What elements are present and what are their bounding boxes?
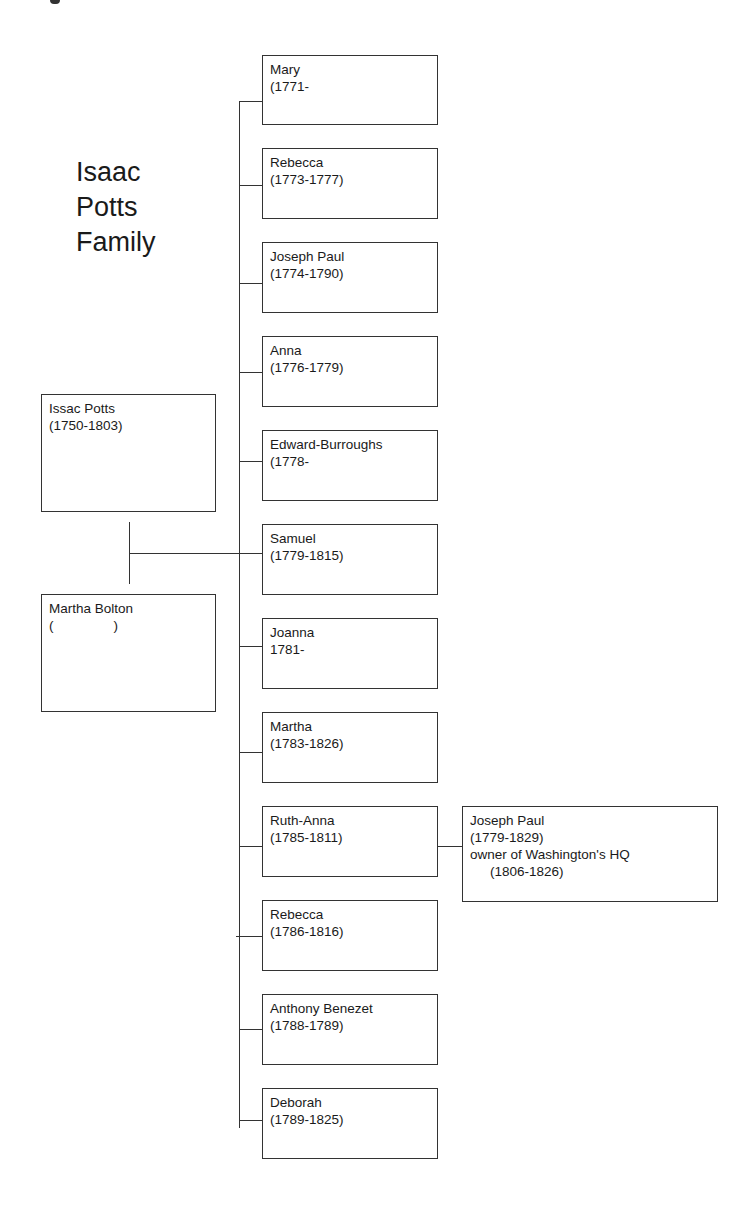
marriage-to-children-line xyxy=(129,553,262,554)
child-name: Mary xyxy=(270,61,437,78)
child-dates: (1789-1825) xyxy=(270,1111,437,1128)
father-name: Issac Potts xyxy=(49,400,215,417)
title-line-2: Potts xyxy=(76,190,156,225)
child-name: Samuel xyxy=(270,530,437,547)
child-name: Joanna xyxy=(270,624,437,641)
child-connector xyxy=(239,846,262,847)
child-connector xyxy=(239,185,262,186)
child-box-mary: Mary (1771- xyxy=(262,55,438,125)
child-box-anna: Anna (1776-1779) xyxy=(262,336,438,407)
child-name: Rebecca xyxy=(270,906,437,923)
spouse-note-dates: (1806-1826) xyxy=(470,863,717,880)
child-dates: (1776-1779) xyxy=(270,359,437,376)
child-box-anthony-benezet: Anthony Benezet (1788-1789) xyxy=(262,994,438,1065)
child-connector xyxy=(236,936,262,937)
child-connector xyxy=(239,101,262,102)
child-dates: (1786-1816) xyxy=(270,923,437,940)
spouse-name: Joseph Paul xyxy=(470,812,717,829)
child-dates: (1785-1811) xyxy=(270,829,437,846)
child-box-ruth-anna: Ruth-Anna (1785-1811) xyxy=(262,806,438,877)
child-name: Ruth-Anna xyxy=(270,812,437,829)
child-dates: (1773-1777) xyxy=(270,171,437,188)
child-name: Deborah xyxy=(270,1094,437,1111)
child-dates: 1781- xyxy=(270,641,437,658)
child-dates: (1771- xyxy=(270,78,437,95)
title-line-3: Family xyxy=(76,225,156,260)
child-box-edward-burroughs: Edward-Burroughs (1778- xyxy=(262,430,438,501)
child-box-rebecca-1786: Rebecca (1786-1816) xyxy=(262,900,438,971)
spouse-box-joseph-paul: Joseph Paul (1779-1829) owner of Washing… xyxy=(462,806,718,902)
title-line-1: Isaac xyxy=(76,155,156,190)
mother-name: Martha Bolton xyxy=(49,600,215,617)
child-dates: (1778- xyxy=(270,453,437,470)
child-box-rebecca-1773: Rebecca (1773-1777) xyxy=(262,148,438,219)
diagram-title: Isaac Potts Family xyxy=(76,155,156,260)
mother-box: Martha Bolton ( ) xyxy=(41,594,216,712)
child-connector xyxy=(239,1029,262,1030)
mother-dates: ( ) xyxy=(49,617,215,634)
top-edge-artifact xyxy=(50,0,60,4)
spouse-dates: (1779-1829) xyxy=(470,829,717,846)
child-box-joanna: Joanna 1781- xyxy=(262,618,438,689)
child-name: Joseph Paul xyxy=(270,248,437,265)
child-connector xyxy=(239,1120,262,1121)
father-box: Issac Potts (1750-1803) xyxy=(41,394,216,512)
child-dates: (1774-1790) xyxy=(270,265,437,282)
child-connector xyxy=(239,372,262,373)
child-box-deborah: Deborah (1789-1825) xyxy=(262,1088,438,1159)
child-dates: (1779-1815) xyxy=(270,547,437,564)
ruth-anna-marriage-line xyxy=(438,846,462,847)
children-trunk-line xyxy=(239,101,240,1128)
child-name: Anna xyxy=(270,342,437,359)
child-dates: (1783-1826) xyxy=(270,735,437,752)
child-dates: (1788-1789) xyxy=(270,1017,437,1034)
child-connector xyxy=(239,461,262,462)
father-dates: (1750-1803) xyxy=(49,417,215,434)
child-box-samuel: Samuel (1779-1815) xyxy=(262,524,438,595)
child-name: Rebecca xyxy=(270,154,437,171)
child-box-joseph-paul: Joseph Paul (1774-1790) xyxy=(262,242,438,313)
child-name: Martha xyxy=(270,718,437,735)
child-connector xyxy=(239,646,262,647)
child-name: Edward-Burroughs xyxy=(270,436,437,453)
child-connector xyxy=(239,283,262,284)
spouse-note: owner of Washington's HQ xyxy=(470,846,717,863)
child-connector xyxy=(239,752,262,753)
child-name: Anthony Benezet xyxy=(270,1000,437,1017)
child-box-martha: Martha (1783-1826) xyxy=(262,712,438,783)
